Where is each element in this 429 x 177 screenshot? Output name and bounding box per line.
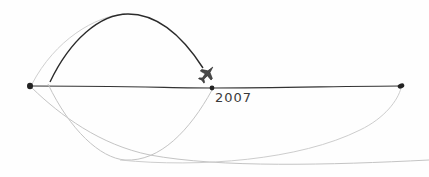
timeline-point-start: [27, 83, 33, 89]
light-loop-middle: [48, 84, 212, 160]
light-loop-right: [120, 88, 401, 163]
sketch-drawing: [0, 0, 429, 177]
year-label: 2007: [215, 90, 252, 105]
timeline-point-end: [397, 83, 405, 90]
light-arc-upper: [32, 14, 125, 84]
flight-arc: [50, 14, 203, 82]
timeline-point-middle: [210, 86, 215, 91]
airplane-icon: [196, 63, 218, 86]
sketch-canvas: 2007: [0, 0, 429, 177]
timeline-line: [30, 86, 401, 88]
